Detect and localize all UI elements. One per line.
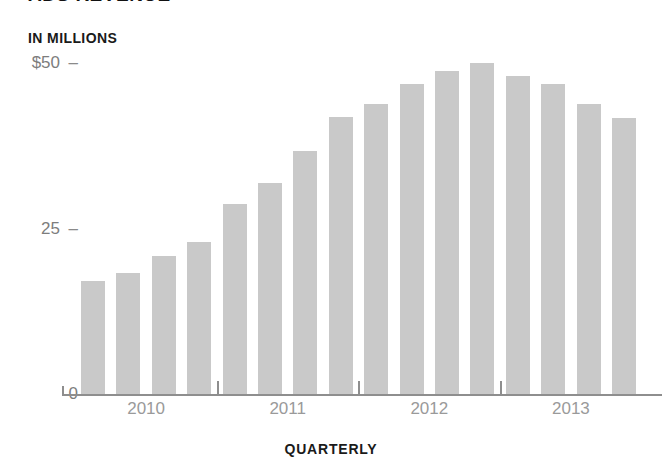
bar xyxy=(223,204,247,394)
x-axis-tick-label-2010: 2010 xyxy=(127,399,165,419)
bar xyxy=(400,84,424,394)
plot-area xyxy=(0,55,662,394)
bar xyxy=(152,256,176,394)
bar xyxy=(293,151,317,394)
bar xyxy=(81,281,105,394)
x-axis-baseline xyxy=(62,394,662,396)
bar xyxy=(541,84,565,394)
bar xyxy=(329,117,353,394)
bar xyxy=(364,104,388,394)
bar xyxy=(435,71,459,394)
bar xyxy=(506,76,530,394)
x-axis-tick-mark xyxy=(217,381,219,394)
x-axis-tick-label-2012: 2012 xyxy=(410,399,448,419)
x-axis-tick-label-2011: 2011 xyxy=(269,399,306,419)
bar xyxy=(116,273,140,394)
bar xyxy=(258,183,282,394)
bar xyxy=(187,242,211,394)
x-axis-tick-label-2013: 2013 xyxy=(552,399,590,419)
x-axis-tick-mark xyxy=(358,381,360,394)
x-axis-tick-mark xyxy=(500,381,502,394)
bar xyxy=(612,118,636,394)
bar xyxy=(577,104,601,394)
x-axis-title: QUARTERLY xyxy=(0,441,662,457)
ads-revenue-bar-chart: ADS REVENUE IN MILLIONS $50–25–0 QUARTER… xyxy=(0,0,662,475)
x-axis-origin-stub xyxy=(62,386,64,395)
bar xyxy=(470,63,494,394)
